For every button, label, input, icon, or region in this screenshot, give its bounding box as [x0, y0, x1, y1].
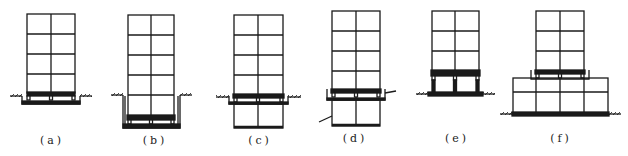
panel-a: [10, 14, 92, 104]
panel-c: [216, 15, 301, 128]
panel-e: [416, 11, 495, 96]
panel-b: [111, 15, 192, 128]
panel-label-a: (a): [40, 134, 64, 147]
panel-label-e: (e): [445, 132, 469, 145]
panel-label-f: (f): [550, 132, 572, 145]
panel-label-d: (d): [343, 132, 368, 145]
panel-f: [500, 11, 621, 116]
isolation-diagram: [0, 0, 628, 156]
panel-label-b: (b): [143, 134, 168, 147]
panel-d: [319, 11, 396, 126]
panel-label-c: (c): [248, 134, 272, 147]
